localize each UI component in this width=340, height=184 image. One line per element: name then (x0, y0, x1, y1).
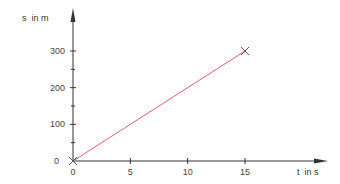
x-tick-label: 15 (240, 167, 250, 177)
x-marker-icon (241, 47, 249, 55)
y-tick-label: 100 (50, 119, 65, 129)
y-tick-label: 0 (54, 156, 59, 166)
x-tick-label: 0 (70, 167, 75, 177)
y-axis-arrow-icon (71, 8, 76, 22)
data-line (73, 51, 245, 161)
x-tick-label: 5 (128, 167, 133, 177)
distance-time-chart: 0510150100200300 s in m t in s (0, 0, 340, 184)
x-axis-label: t in s (297, 167, 319, 177)
y-tick-label: 200 (50, 83, 65, 93)
y-axis-label: s in m (22, 13, 49, 23)
axes (71, 8, 329, 164)
y-tick-label: 300 (50, 46, 65, 56)
data-series (73, 51, 245, 161)
x-tick-label: 10 (183, 167, 193, 177)
x-axis-arrow-icon (314, 159, 328, 164)
